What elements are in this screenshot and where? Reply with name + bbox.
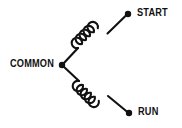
common-junction-dot xyxy=(59,62,65,68)
common-terminal-label: COMMON xyxy=(10,59,54,69)
lead-common-to-start-winding xyxy=(63,48,78,64)
lead-run-winding-to-terminal xyxy=(108,96,128,113)
wiring-diagram: COMMON START RUN xyxy=(0,0,182,128)
run-winding-coil xyxy=(71,79,101,109)
run-terminal-dot xyxy=(126,110,132,116)
lead-common-to-run-winding xyxy=(63,66,79,81)
start-terminal-dot xyxy=(125,11,131,17)
start-terminal-label: START xyxy=(137,8,168,18)
start-winding-coil xyxy=(70,20,100,50)
run-terminal-label: RUN xyxy=(138,107,158,117)
lead-start-winding-to-terminal xyxy=(108,15,128,34)
